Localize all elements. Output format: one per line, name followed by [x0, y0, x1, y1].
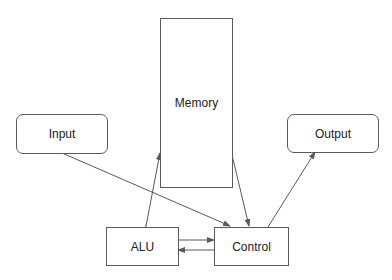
memory-label: Memory [175, 96, 218, 110]
output-label: Output [315, 127, 351, 141]
arrow-control-to-output [268, 152, 315, 227]
output-box: Output [287, 114, 379, 153]
alu-label: ALU [131, 240, 154, 254]
arrow-memory-alu-bidirectional [146, 153, 160, 226]
alu-box: ALU [106, 227, 179, 266]
input-box: Input [16, 114, 108, 154]
control-label: Control [232, 240, 271, 254]
control-box: Control [214, 227, 289, 266]
memory-box: Memory [160, 18, 233, 188]
arrow-memory-to-control [232, 155, 249, 226]
input-label: Input [49, 127, 76, 141]
